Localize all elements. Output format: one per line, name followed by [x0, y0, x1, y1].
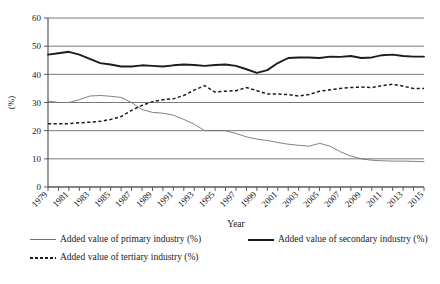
xtick-label-2013: 2013 [385, 189, 405, 209]
xtick-label-2003: 2003 [280, 189, 300, 209]
legend-item-primary: Added value of primary industry (%) [30, 234, 201, 244]
xtick-label-1993: 1993 [176, 189, 196, 209]
ytick-label-10: 10 [32, 154, 42, 164]
xtick-label-1991: 1991 [155, 189, 175, 209]
ytick-label-50: 50 [32, 41, 42, 51]
xtick-label-1985: 1985 [92, 189, 112, 209]
legend-label-primary: Added value of primary industry (%) [60, 234, 201, 244]
xtick-label-1995: 1995 [197, 189, 217, 209]
ytick-label-30: 30 [32, 98, 42, 108]
xtick-label-2015: 2015 [406, 189, 426, 209]
legend-swatch-primary [30, 234, 56, 244]
xtick-label-1987: 1987 [113, 189, 133, 209]
legend-label-secondary: Added value of secondary industry (%) [278, 234, 428, 244]
series-line-thin-solid [48, 95, 424, 161]
y-axis-title: (%) [6, 96, 16, 110]
ytick-label-60: 60 [32, 13, 42, 23]
legend-label-tertiary: Added value of tertiary industry (%) [60, 252, 199, 262]
legend-swatch-secondary [248, 234, 274, 244]
xtick-label-1999: 1999 [239, 189, 259, 209]
x-axis-title: Year [227, 219, 245, 229]
xtick-label-1989: 1989 [134, 189, 154, 209]
xtick-label-2009: 2009 [343, 189, 363, 209]
xtick-label-2005: 2005 [301, 189, 321, 209]
xtick-label-2011: 2011 [364, 189, 384, 209]
xtick-label-1983: 1983 [71, 189, 91, 209]
legend-swatch-tertiary [30, 252, 56, 262]
series-line-dashed [48, 84, 424, 123]
xtick-label-1997: 1997 [218, 189, 238, 209]
xtick-label-1981: 1981 [51, 189, 71, 209]
series-line-thick-solid [48, 52, 424, 73]
xtick-label-1979: 1979 [30, 189, 50, 209]
xtick-label-2001: 2001 [259, 189, 279, 209]
legend-item-tertiary: Added value of tertiary industry (%) [30, 252, 199, 262]
legend-item-secondary: Added value of secondary industry (%) [248, 234, 428, 244]
xtick-label-2007: 2007 [322, 189, 342, 209]
line-chart: 0102030405060197919811983198519871989199… [0, 0, 440, 284]
ytick-label-40: 40 [32, 70, 42, 80]
ytick-label-20: 20 [32, 126, 42, 136]
